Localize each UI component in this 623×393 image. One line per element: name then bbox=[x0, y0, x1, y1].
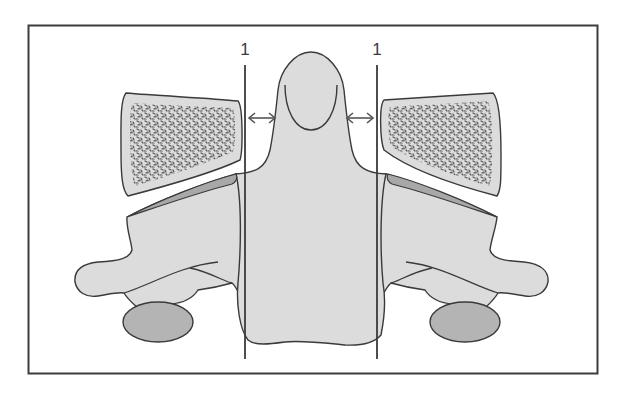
vertebra-illustration bbox=[0, 0, 623, 393]
left-line-label: 1 bbox=[240, 41, 249, 58]
right-oval bbox=[430, 302, 500, 342]
right-line-label: 1 bbox=[372, 41, 381, 58]
left-oval bbox=[123, 302, 193, 342]
diagram-canvas: 1 1 bbox=[0, 0, 623, 393]
